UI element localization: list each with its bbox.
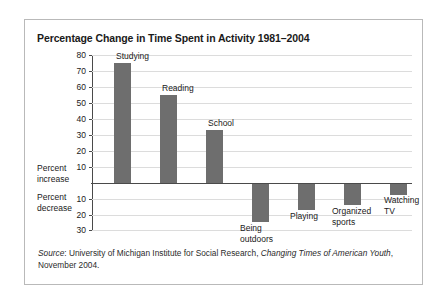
page-title: Percentage Change in Time Spent in Activ… [37, 32, 309, 44]
bar-label-school: School [208, 118, 234, 129]
tick-label-10: 10 [64, 163, 86, 172]
tick-mark-80 [89, 55, 92, 56]
tick-mark-minus-30 [89, 230, 92, 231]
tick-mark-60 [89, 87, 92, 88]
chart-figure: Percentage Change in Time Spent in Activ… [24, 19, 423, 285]
tick-mark-40 [89, 119, 92, 120]
tick-mark-50 [89, 103, 92, 104]
tick-label-50: 50 [64, 99, 86, 108]
gridline-50 [92, 103, 412, 104]
tick-mark-minus-10 [89, 199, 92, 200]
tick-label-minus-30: 30 [64, 226, 86, 235]
tick-label-80: 80 [64, 51, 86, 60]
axis-area: 80 70 60 50 40 30 20 10 10 20 30 Studyin… [92, 53, 412, 238]
gridline-70 [92, 71, 412, 72]
bar-being-outdoors [252, 184, 269, 222]
bar-label-organized-sports: Organized sportsOrganizedsports [332, 206, 371, 227]
source-note: Source: University of Michigan Institute… [38, 248, 410, 271]
tick-mark-30 [89, 135, 92, 136]
tick-label-40: 40 [64, 115, 86, 124]
tick-mark-10 [89, 167, 92, 168]
bar-studying [114, 63, 131, 183]
bar-label-reading: Reading [162, 83, 194, 94]
tick-label-minus-10: 10 [64, 195, 86, 204]
gridline-40 [92, 119, 412, 120]
tick-mark-minus-20 [89, 215, 92, 216]
bar-playing [298, 184, 315, 210]
tick-mark-20 [89, 151, 92, 152]
tick-label-60: 60 [64, 83, 86, 92]
tick-label-20: 20 [64, 147, 86, 156]
bar-label-watching-tv: Watching TVWatchingTV [384, 195, 419, 216]
bar-label-being-outdoors: Being outdoorsBeingoutdoors [240, 223, 273, 244]
gridline-10 [92, 167, 412, 168]
bar-organized-sports [344, 184, 361, 205]
bar-school [206, 130, 223, 183]
bar-label-studying: Studying [116, 51, 149, 62]
bar-watching-tv [390, 184, 407, 195]
source-report-title: Changing Times of American Youth [261, 248, 391, 258]
gridline-20 [92, 151, 412, 152]
plot-area: Percent increase Percent decrease [37, 53, 412, 238]
bar-reading [160, 95, 177, 183]
gridline-60 [92, 87, 412, 88]
source-text: : University of Michigan Institute for S… [64, 248, 260, 258]
tick-label-70: 70 [64, 67, 86, 76]
tick-mark-70 [89, 71, 92, 72]
source-prefix: Source [38, 248, 64, 258]
tick-label-30: 30 [64, 131, 86, 140]
tick-label-minus-20: 20 [64, 211, 86, 220]
bar-label-playing: Playing [290, 211, 318, 222]
gridline-30 [92, 135, 412, 136]
y-axis-line [92, 55, 93, 230]
